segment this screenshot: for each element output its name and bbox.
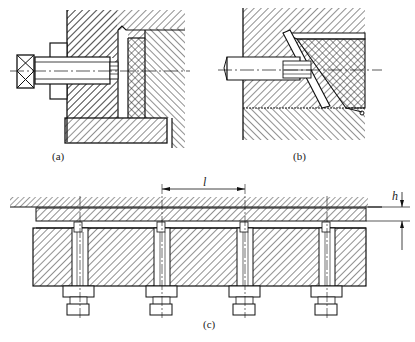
caption-a: (a) [52, 150, 64, 162]
technical-drawing [0, 0, 415, 342]
spacing-label: l [203, 175, 206, 190]
dimension-h [366, 192, 410, 250]
caption-c: (c) [203, 318, 215, 330]
panel-a [10, 10, 190, 148]
gap-label: h [392, 189, 398, 204]
caption-b: (b) [293, 150, 306, 162]
panel-b [218, 8, 382, 140]
panel-c [10, 184, 410, 318]
